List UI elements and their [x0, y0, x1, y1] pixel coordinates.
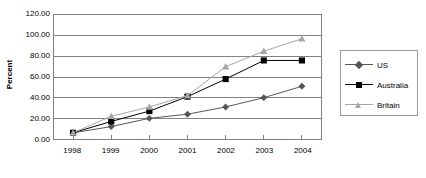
- data-point-marker: [146, 115, 153, 122]
- legend-marker-triangle-icon: [355, 102, 361, 108]
- data-point-marker: [223, 76, 229, 82]
- series-britain: [69, 35, 305, 136]
- y-tick-label: 40.00: [14, 94, 50, 102]
- data-point-marker: [222, 104, 229, 111]
- legend-sample: [345, 79, 373, 91]
- x-tick-label: 2003: [244, 146, 284, 155]
- y-tick-label: 80.00: [14, 52, 50, 60]
- y-tick-label: 100.00: [14, 31, 50, 39]
- legend-sample: [345, 99, 373, 111]
- x-tick-label: 2001: [168, 146, 208, 155]
- legend-sample: [345, 59, 373, 71]
- y-tick-label: 0.00: [14, 136, 50, 144]
- legend-item-us[interactable]: US: [345, 58, 415, 72]
- data-point-marker: [260, 94, 267, 101]
- data-point-marker: [261, 57, 267, 63]
- x-tick-label: 2002: [206, 146, 246, 155]
- data-point-marker: [299, 57, 305, 63]
- x-axis-tick-labels: 1998199920002001200220032004: [53, 146, 322, 162]
- legend: USAustraliaBritain: [340, 50, 418, 116]
- data-point-marker: [222, 63, 229, 69]
- x-tick-label: 2004: [283, 146, 323, 155]
- legend-item-britain[interactable]: Britain: [345, 98, 415, 112]
- plot-area: [53, 14, 322, 140]
- legend-marker-square-icon: [356, 82, 362, 88]
- data-point-marker: [184, 111, 191, 118]
- x-tick-label: 2000: [129, 146, 169, 155]
- legend-marker-diamond-icon: [355, 61, 363, 69]
- legend-label: US: [373, 61, 388, 70]
- data-point-marker: [298, 83, 305, 90]
- legend-label: Britain: [373, 101, 400, 110]
- legend-label: Australia: [373, 81, 408, 90]
- series-us: [70, 83, 306, 136]
- y-tick-label: 60.00: [14, 73, 50, 81]
- y-tick-label: 20.00: [14, 115, 50, 123]
- legend-item-australia[interactable]: Australia: [345, 78, 415, 92]
- plot-canvas: [54, 15, 321, 139]
- x-tick-label: 1998: [52, 146, 92, 155]
- y-tick-label: 120.00: [14, 10, 50, 18]
- data-point-marker: [108, 118, 114, 124]
- x-tick-label: 1999: [91, 146, 131, 155]
- line-chart: Percent 0.0020.0040.0060.0080.00100.0012…: [0, 0, 426, 178]
- y-axis-tick-labels: 0.0020.0040.0060.0080.00100.00120.00: [10, 0, 50, 178]
